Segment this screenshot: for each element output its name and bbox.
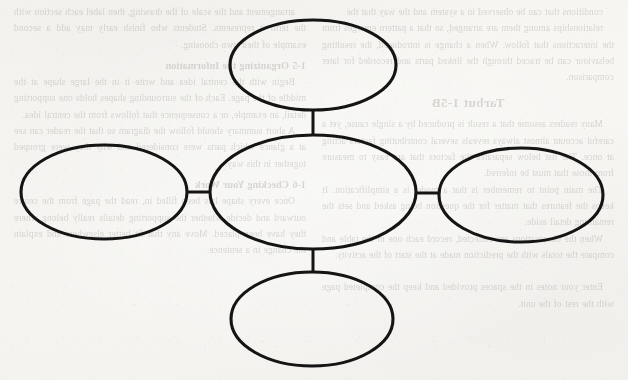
top-bubble[interactable] <box>230 20 396 110</box>
right-bubble-outline[interactable] <box>439 148 603 242</box>
left-bubble-outline[interactable] <box>21 145 187 239</box>
scanned-worksheet-page: conditions that can be observed in a sys… <box>0 0 628 380</box>
center-bubble[interactable] <box>210 135 416 249</box>
bottom-bubble-outline[interactable] <box>231 272 393 366</box>
bubble-map-organizer <box>0 0 628 380</box>
right-bubble[interactable] <box>439 148 603 242</box>
bottom-bubble[interactable] <box>231 272 393 366</box>
bubble-group <box>21 20 603 366</box>
left-bubble[interactable] <box>21 145 187 239</box>
top-bubble-outline[interactable] <box>230 20 396 110</box>
center-bubble-outline[interactable] <box>210 135 416 249</box>
